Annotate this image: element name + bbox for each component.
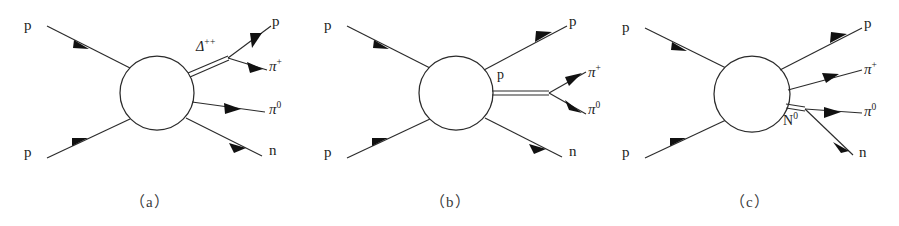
figure-root: p p Δ++ p π+ π0 n （a） p p p p π+ π0 n （b… (0, 0, 899, 226)
panel-a-interaction-blob (120, 56, 194, 130)
panel-b-outgoing-neutron-label: n (569, 144, 577, 159)
panel-c-outgoing-pion-plus-arrow (822, 73, 839, 83)
panel-a-incoming-proton-top-line (47, 26, 130, 68)
panel-a-outgoing-proton-label: p (272, 14, 280, 29)
panel-b-proton-propagator-label: p (497, 68, 504, 82)
panel-a-outgoing-pion-zero-arrow (224, 103, 241, 114)
panel-b-caption: （b） (430, 190, 471, 211)
panel-b-graphics (347, 26, 586, 158)
panel-a-outgoing-neutron-label: n (269, 143, 277, 158)
panel-a-graphics (47, 26, 271, 158)
panel-a-outgoing-neutron-line (186, 118, 262, 156)
panel-b-incoming-proton-top-label: p (324, 18, 332, 33)
panel-a-delta-plus-plus-label: Δ++ (196, 38, 216, 54)
panel-a-outgoing-proton-line (228, 26, 271, 58)
panel-a-incoming-proton-bottom-line (47, 119, 130, 158)
panel-b-outgoing-proton-label: p (569, 14, 577, 29)
panel-a-incoming-proton-top-label: p (24, 18, 32, 33)
panel-c-outgoing-proton-label: p (864, 16, 872, 31)
panel-b-outgoing-pion-zero-arrow (565, 100, 582, 113)
panel-b-outgoing-pion-plus-label: π+ (588, 64, 601, 80)
panel-b-incoming-proton-top-line (347, 26, 430, 68)
panel-a-caption: （a） (130, 190, 170, 211)
panel-b-outgoing-proton-line (484, 26, 567, 70)
panel-a-delta-propagator-line-1 (190, 60, 229, 77)
panel-c-outgoing-pion-zero-arrow (824, 107, 841, 118)
panel-c-incoming-proton-top-line (645, 28, 726, 68)
panel-b-outgoing-pion-plus-arrow (565, 73, 582, 86)
panel-c-incoming-proton-top-label: p (622, 20, 630, 35)
panel-a-delta-propagator-line-2 (188, 56, 228, 73)
panel-a-outgoing-pion-zero-label: π0 (269, 101, 282, 117)
panel-b-outgoing-neutron-line (485, 118, 562, 157)
panel-c-outgoing-proton-line (780, 28, 862, 70)
panel-b-outgoing-neutron-arrow (529, 144, 546, 154)
panel-b-outgoing-proton-arrow (535, 31, 552, 42)
panel-b-incoming-proton-bottom-arrow (372, 138, 388, 146)
panel-a-outgoing-proton-arrow (250, 33, 262, 48)
panel-a-incoming-proton-bottom-label: p (24, 145, 32, 160)
panel-a-outgoing-pion-plus-label: π+ (269, 58, 282, 74)
panel-c-outgoing-pion-zero-label: π0 (864, 103, 877, 119)
panel-c-outgoing-pion-plus-label: π+ (864, 61, 877, 77)
panel-b-incoming-proton-bottom-label: p (324, 145, 332, 160)
panel-c-incoming-proton-bottom-label: p (622, 145, 630, 160)
panel-c-outgoing-neutron-label: n (859, 145, 867, 160)
panel-c-incoming-proton-bottom-line (645, 120, 726, 158)
panel-c-caption: （c） (730, 190, 770, 211)
panel-b-interaction-blob (419, 56, 493, 130)
panel-c-graphics (645, 28, 862, 158)
panel-a-outgoing-neutron-arrow (229, 143, 246, 153)
panel-b-incoming-proton-top-arrow (373, 40, 389, 49)
panel-b-incoming-proton-bottom-line (347, 119, 430, 158)
panel-c-n-zero-label: N0 (783, 112, 798, 128)
panel-b-outgoing-pion-zero-label: π0 (588, 101, 601, 117)
panel-c-interaction-blob (714, 56, 790, 132)
panel-c-incoming-proton-top-arrow (671, 42, 687, 51)
panel-a-incoming-proton-top-arrow (73, 40, 89, 49)
